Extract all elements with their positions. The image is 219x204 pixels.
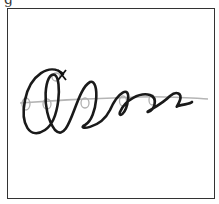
axis-loops (22, 73, 155, 110)
coil-diagram (0, 0, 219, 204)
